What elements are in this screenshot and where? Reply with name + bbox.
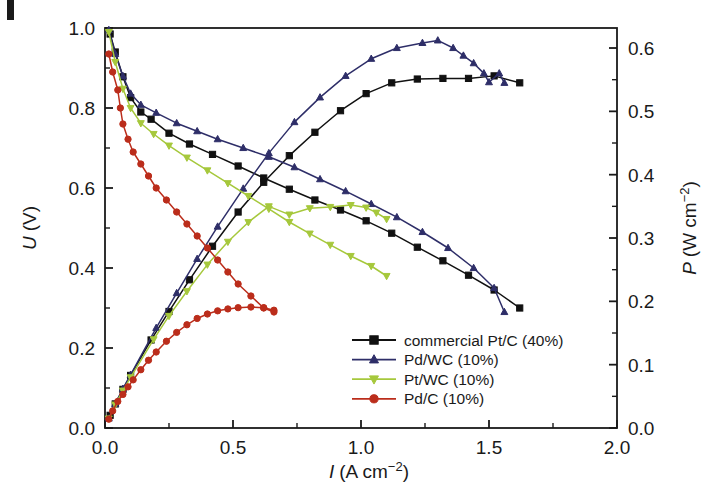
data-marker: [214, 308, 220, 314]
data-marker: [184, 322, 190, 328]
data-marker: [370, 336, 378, 344]
data-marker: [148, 116, 154, 122]
legend-label: Pd/WC (10%): [404, 351, 499, 368]
x-axis-title: I(A cm−2): [329, 459, 409, 482]
data-marker: [194, 233, 200, 239]
data-marker: [363, 218, 369, 224]
y-left-tick-label: 0.8: [69, 98, 95, 119]
data-marker: [517, 305, 523, 311]
x-tick-label: 1.0: [348, 437, 374, 458]
data-marker: [225, 306, 231, 312]
data-marker: [235, 305, 241, 311]
data-marker: [337, 108, 343, 114]
y-right-tick-label: 0.2: [628, 291, 654, 312]
data-marker: [225, 269, 231, 275]
data-marker: [153, 349, 159, 355]
y-left-tick-label: 1.0: [69, 18, 95, 39]
data-marker: [145, 357, 151, 363]
data-marker: [337, 207, 343, 213]
series-line: [109, 307, 274, 419]
data-marker: [110, 69, 116, 75]
y-right-tick-label: 0.3: [628, 228, 654, 249]
data-marker: [174, 209, 180, 215]
data-marker: [389, 230, 395, 236]
data-marker: [445, 244, 452, 250]
data-marker: [465, 75, 471, 81]
data-marker: [414, 244, 420, 250]
data-marker: [460, 52, 467, 58]
x-tick-label: 2.0: [604, 437, 630, 458]
data-marker: [501, 308, 508, 314]
x-tick-label: 1.5: [476, 437, 502, 458]
data-marker: [138, 109, 144, 115]
y-right-tick-label: 0.1: [628, 355, 654, 376]
data-marker: [248, 304, 254, 310]
legend-item-pd-c-10-: Pd/C (10%): [352, 390, 484, 407]
data-marker: [145, 173, 151, 179]
data-marker: [110, 408, 116, 414]
data-marker: [440, 258, 446, 264]
data-marker: [204, 168, 211, 174]
data-marker: [389, 80, 395, 86]
y-right-axis-title: P(W cm−2): [677, 181, 700, 275]
legend-item-pt-wc-10-: Pt/WC (10%): [352, 371, 494, 388]
data-marker: [370, 395, 378, 403]
figure-panel: commercial Pt/C (40%)Pd/WC (10%)Pt/WC (1…: [0, 0, 714, 502]
data-marker: [204, 245, 210, 251]
data-marker: [368, 263, 375, 269]
data-marker: [163, 197, 169, 203]
series-pt-wc-10-polarization: [105, 29, 390, 279]
y-left-tick-label: 0.4: [69, 258, 96, 279]
data-marker: [204, 311, 210, 317]
data-marker: [224, 181, 231, 187]
plot-frame: [105, 28, 617, 428]
data-marker: [383, 216, 390, 222]
x-tick-label: 0.5: [220, 437, 246, 458]
data-marker: [363, 91, 369, 97]
data-marker: [271, 307, 277, 313]
y-right-tick-label: 0.4: [628, 165, 655, 186]
fuel-cell-polarization-power-chart: commercial Pt/C (40%)Pd/WC (10%)Pt/WC (1…: [0, 0, 714, 502]
legend-layer: commercial Pt/C (40%)Pd/WC (10%)Pt/WC (1…: [352, 332, 563, 408]
data-marker: [183, 155, 190, 161]
data-marker: [184, 221, 190, 227]
data-marker: [312, 129, 318, 135]
data-marker: [125, 384, 131, 390]
legend-label: Pt/WC (10%): [404, 371, 494, 388]
y-right-tick-label: 0.5: [628, 101, 654, 122]
legend-label: commercial Pt/C (40%): [404, 332, 563, 349]
data-marker: [312, 197, 318, 203]
data-marker: [248, 293, 254, 299]
data-marker: [235, 281, 241, 287]
data-marker: [286, 186, 292, 192]
data-marker: [517, 80, 523, 86]
series-line: [109, 54, 274, 312]
series-line: [109, 32, 387, 276]
series-line: [110, 34, 520, 308]
data-marker: [125, 136, 131, 142]
y-right-tick-label: 0.6: [628, 38, 654, 59]
data-marker: [261, 305, 267, 311]
series-pd-wc-10-polarization: [105, 26, 507, 314]
data-marker: [286, 153, 292, 159]
legend-label: Pd/C (10%): [404, 390, 484, 407]
data-marker: [138, 161, 144, 167]
data-marker: [106, 51, 112, 57]
data-marker: [130, 377, 136, 383]
data-marker: [414, 76, 420, 82]
series-commercial-pt-c-40-polarization: [107, 31, 523, 311]
data-marker: [120, 121, 126, 127]
y-left-axis-title: U(V): [19, 206, 40, 250]
data-marker: [115, 398, 121, 404]
y-right-tick-label: 0.0: [628, 418, 654, 439]
data-marker: [235, 209, 241, 215]
data-marker: [115, 87, 121, 93]
series-pt-wc-10-power: [105, 203, 390, 423]
legend-item-pd-wc-10-: Pd/WC (10%): [352, 351, 499, 368]
data-marker: [235, 163, 241, 169]
data-marker: [286, 212, 293, 218]
data-marker: [117, 105, 123, 111]
data-marker: [470, 59, 477, 65]
data-marker: [440, 75, 446, 81]
data-marker: [150, 131, 157, 137]
